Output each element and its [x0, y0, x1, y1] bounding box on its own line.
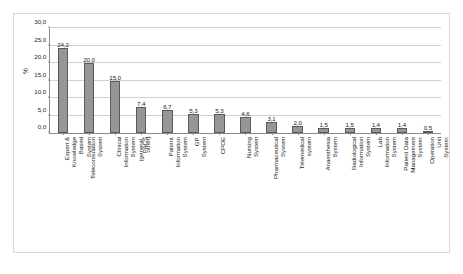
- x-axis-tick-mark: [115, 133, 116, 135]
- bar-value-label: 5,3: [215, 107, 223, 114]
- bar-value-label: 4,6: [241, 110, 249, 117]
- bar-slot: 1,4Lab Information System: [363, 28, 389, 133]
- y-axis-tick-label: 0,0: [38, 123, 46, 130]
- x-axis-category-label: Teleconsulation System: [89, 137, 103, 179]
- bar-value-label: 1,5: [320, 121, 328, 128]
- x-axis-tick-mark: [63, 133, 64, 135]
- plot-area: 0,05,010,015,020,025,030,0 24,2Expert & …: [49, 28, 441, 134]
- bar-value-label: 15,0: [109, 74, 121, 81]
- x-axis-tick-mark: [298, 133, 299, 135]
- bar-slot: 0,5Operation Unit System: [415, 28, 441, 133]
- x-axis-category-label: Nursing System: [245, 137, 259, 158]
- x-axis-tick-mark: [141, 133, 142, 135]
- bar-value-label: 20,0: [83, 56, 95, 63]
- bar-slot: 1,4Patient Data Management System: [389, 28, 415, 133]
- x-axis-tick-mark: [350, 133, 351, 135]
- bar-value-label: 5,3: [189, 107, 197, 114]
- bar-slot: 2,0Telemedical system: [285, 28, 311, 133]
- x-axis-category-label: Lab Information System: [376, 137, 398, 167]
- bar[interactable]: 4,6: [240, 117, 250, 133]
- bar-slot: 5,3GP System: [180, 28, 206, 133]
- bar-slot: 1,5Anaesthesia System: [311, 28, 337, 133]
- x-axis-tick-mark: [89, 133, 90, 135]
- bar-slot: 3,1Pharmaceutical System: [259, 28, 285, 133]
- bar[interactable]: 7,4: [136, 107, 146, 133]
- bar-value-label: 6,7: [163, 103, 171, 110]
- bar-slot: 6,7Patient Information System: [154, 28, 180, 133]
- x-axis-tick-mark: [167, 133, 168, 135]
- x-axis-category-label: Telemedical system: [298, 137, 312, 169]
- y-axis-tick-label: 5,0: [38, 105, 46, 112]
- y-axis-tick-label: 25,0: [34, 35, 46, 42]
- x-axis-category-label: Patient Data Management System: [402, 137, 424, 173]
- bar-value-label: 1,4: [372, 121, 380, 128]
- x-axis-tick-mark: [245, 133, 246, 135]
- bar[interactable]: 20,0: [84, 63, 94, 133]
- x-axis-category-label: Pharmaceutical System: [272, 137, 286, 179]
- x-axis-category-label: PACS: [141, 137, 148, 153]
- x-axis-category-label: Expert & Knowledge Based System: [63, 137, 92, 167]
- y-axis-tick-label: 20,0: [34, 53, 46, 60]
- bar-slot: 20,0Teleconsulation System: [76, 28, 102, 133]
- x-axis-category-label: Radiological Information System: [350, 137, 372, 170]
- bar-slot: 4,6Nursing System: [232, 28, 258, 133]
- bar[interactable]: 3,1: [266, 122, 276, 133]
- y-axis-tick-label: 30,0: [34, 18, 46, 25]
- x-axis-category-label: Anaesthesia System: [324, 137, 338, 171]
- bar-value-label: 2,0: [293, 119, 301, 126]
- x-axis-tick-mark: [402, 133, 403, 135]
- y-axis-label: %: [22, 68, 29, 74]
- y-axis-tick-label: 10,0: [34, 88, 46, 95]
- x-axis-category-label: Operation Unit System: [428, 137, 450, 164]
- bar-value-label: 7,4: [137, 100, 145, 107]
- bar-slot: 24,2Expert & Knowledge Based System: [50, 28, 76, 133]
- bar-value-label: 24,2: [57, 41, 69, 48]
- bar-value-label: 1,5: [346, 121, 354, 128]
- x-axis-tick-mark: [376, 133, 377, 135]
- x-axis-tick-mark: [324, 133, 325, 135]
- bar[interactable]: 5,3: [214, 114, 224, 133]
- x-axis-category-label: CPOE: [219, 137, 226, 154]
- bar[interactable]: 24,2: [58, 48, 68, 133]
- bar-slot: 7,4PACS: [128, 28, 154, 133]
- x-axis-category-label: Patient Information System: [167, 137, 189, 167]
- bar[interactable]: 2,0: [292, 126, 302, 133]
- bar[interactable]: 15,0: [110, 81, 120, 134]
- bar-slot: 5,3CPOE: [206, 28, 232, 133]
- bar-value-label: 1,4: [398, 121, 406, 128]
- y-axis-tick-label: 15,0: [34, 70, 46, 77]
- bar-slot: 15,0Clinical Information System (general…: [102, 28, 128, 133]
- bar[interactable]: 5,3: [188, 114, 198, 133]
- bar-slot: 1,5Radiological Information System: [337, 28, 363, 133]
- x-axis-tick-mark: [219, 133, 220, 135]
- x-axis-tick-mark: [272, 133, 273, 135]
- chart-figure: % 0,05,010,015,020,025,030,0 24,2Expert …: [13, 13, 450, 253]
- bar-value-label: 0,5: [424, 124, 432, 131]
- x-axis-category-label: GP System: [193, 137, 207, 157]
- bar-value-label: 3,1: [267, 115, 275, 122]
- x-axis-tick-mark: [428, 133, 429, 135]
- x-axis-tick-mark: [193, 133, 194, 135]
- bar[interactable]: 6,7: [162, 110, 172, 133]
